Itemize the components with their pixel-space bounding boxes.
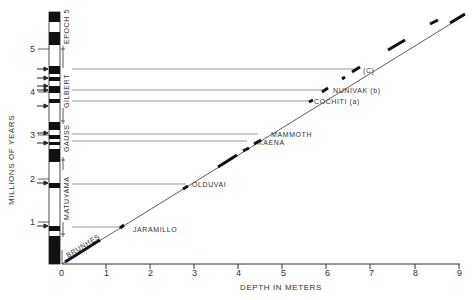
x-tick-0: 0	[59, 268, 64, 278]
mammoth-label: MAMMOTH	[271, 131, 312, 138]
event-arrows	[37, 67, 48, 228]
olduvai-label: OLDUVAI	[192, 181, 226, 188]
nunivak-label: NUNIVAK (b)	[333, 87, 381, 95]
gauss-label: GAUSS	[63, 124, 70, 152]
x-axis: 0 1 2 3 4 5 6 7 8 9 DEPTH IN METERS	[59, 250, 462, 292]
polarity-column	[49, 12, 60, 264]
gilbert-label: GILBERT	[63, 74, 70, 108]
chart: MILLIONS OF YEARS 1 2 3 4 5	[0, 0, 472, 300]
x-tick-6: 6	[325, 268, 330, 278]
y-tick-3: 3	[30, 130, 35, 140]
x-tick-4: 4	[236, 268, 241, 278]
matuyama-label: MATUYAMA	[63, 177, 70, 220]
y-tick-1: 1	[30, 217, 35, 227]
y-axis-label: MILLIONS OF YEARS	[7, 115, 16, 205]
x-tick-3: 3	[192, 268, 197, 278]
y-tick-4: 4	[30, 87, 35, 97]
epoch-5-label: EPOCH 5	[63, 9, 70, 44]
cochiti-label: COCHITI (a)	[314, 98, 360, 106]
x-axis-label: DEPTH IN METERS	[240, 283, 322, 292]
jaramillo-label: JARAMILLO	[133, 226, 177, 233]
x-tick-7: 7	[369, 268, 374, 278]
x-tick-8: 8	[413, 268, 418, 278]
c-label: (C)	[363, 67, 375, 75]
x-tick-2: 2	[148, 268, 153, 278]
x-tick-1: 1	[104, 268, 109, 278]
kaena-label: KAENA	[258, 139, 285, 146]
event-lines	[72, 69, 355, 227]
brunhes-label: BRUNHES	[65, 233, 101, 259]
x-tick-5: 5	[281, 268, 286, 278]
y-tick-2: 2	[30, 174, 35, 184]
x-tick-9: 9	[457, 268, 462, 278]
y-tick-5: 5	[30, 44, 35, 54]
